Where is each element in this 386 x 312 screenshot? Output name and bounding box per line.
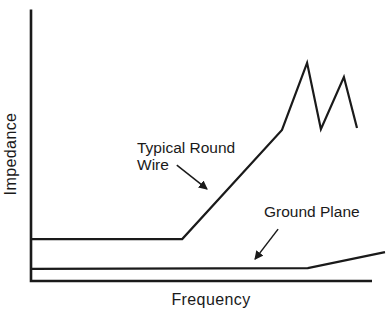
impedance-vs-frequency-chart: Impedance Frequency Typical Round Wire G… <box>0 0 386 312</box>
annotation-typical-round-wire: Typical Round Wire <box>137 139 235 173</box>
y-axis-label: Impedance <box>2 113 20 196</box>
annotation-arrow-1 <box>255 229 278 259</box>
annotation-ground-plane: Ground Plane <box>264 203 360 220</box>
series-ground-plane <box>31 252 385 269</box>
x-axis-label: Frequency <box>171 291 250 309</box>
